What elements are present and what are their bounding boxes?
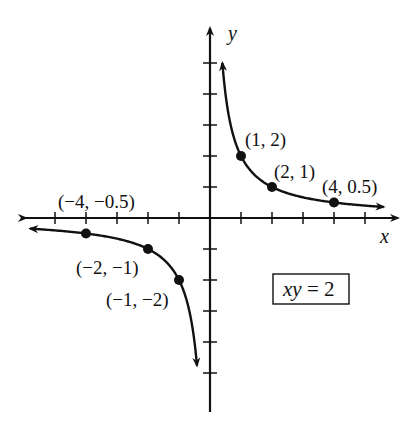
equation-rest: = 2 [302,277,335,301]
hyperbola-branch-quadrant-1-top-arrow [222,63,241,156]
data-point [81,229,91,239]
point-label-1-2: (1, 2) [245,129,286,151]
point-label-neg4-neg0.5: (−4, −0.5) [58,191,135,213]
point-label-neg1-neg2: (−1, −2) [106,289,169,311]
equation-variable: xy [282,277,302,301]
data-point [267,182,277,192]
data-point [174,275,184,285]
data-point [329,198,339,208]
equation-box: xy = 2 [273,274,349,304]
point-label-2-1: (2, 1) [274,161,315,183]
y-axis-label: y [226,22,237,45]
hyperbola-graph: x y (1, 2) (2, 1) (4, 0.5) (−4, −0.5) (−… [0,0,411,433]
point-label-4-0.5: (4, 0.5) [322,176,377,198]
svg-text:xy = 2: xy = 2 [282,277,335,301]
hyperbola-branch-quadrant-3 [179,280,197,366]
data-point [143,244,153,254]
data-point [236,151,246,161]
x-axis-label: x [379,225,389,247]
point-label-neg2-neg1: (−2, −1) [76,257,139,279]
